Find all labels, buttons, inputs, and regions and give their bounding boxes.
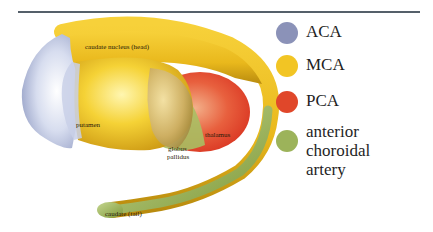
legend-label-anterior-choroidal: anterior choroidal artery — [306, 122, 370, 179]
pca-swatch-icon — [276, 91, 298, 113]
aca-swatch-icon — [276, 22, 298, 44]
legend-label-anterior-choroidal-line1: anterior choroidal — [306, 122, 370, 160]
legend-label-aca: ACA — [306, 22, 342, 41]
legend-label-pca: PCA — [306, 91, 339, 110]
legend-item-anterior-choroidal: anterior choroidal artery — [276, 122, 370, 179]
mca-swatch-icon — [276, 55, 298, 77]
basal-ganglia-diagram — [0, 0, 290, 232]
legend-item-aca: ACA — [276, 22, 342, 44]
legend-label-anterior-choroidal-line2: artery — [306, 160, 346, 179]
legend-item-mca: MCA — [276, 55, 345, 77]
label-globus-pallidus-2: pallidus — [167, 153, 189, 161]
label-globus-pallidus-1: globus — [168, 145, 187, 153]
label-putamen: putamen — [76, 121, 100, 129]
label-caudate-tail: caudate (tail) — [105, 210, 142, 218]
legend-item-pca: PCA — [276, 91, 339, 113]
anterior-choroidal-swatch-icon — [276, 130, 298, 152]
legend-label-mca: MCA — [306, 55, 345, 74]
label-thalamus: thalamus — [205, 131, 230, 139]
label-caudate-head: caudate nucleus (head) — [85, 43, 149, 51]
